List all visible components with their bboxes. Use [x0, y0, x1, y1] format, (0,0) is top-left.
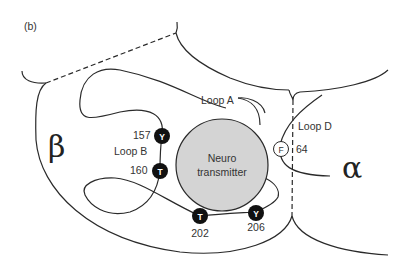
- loop-b-label: Loop B: [114, 145, 147, 157]
- residue-t160-letter: T: [157, 167, 163, 177]
- outline-alpha-top: [289, 70, 388, 100]
- interface-dashed-line-top: [46, 33, 176, 83]
- alpha-subunit-label: α: [342, 150, 362, 185]
- residue-y157-number: 157: [133, 129, 151, 141]
- residue-f64-number: 64: [296, 143, 308, 155]
- residue-y157-letter: Y: [159, 132, 165, 142]
- neurotransmitter-label-line2: transmitter: [197, 166, 247, 178]
- binding-site-diagram: (b) Neuro transmitter β α Loop A Loop B …: [0, 0, 410, 269]
- residue-t202-letter: T: [197, 212, 203, 222]
- panel-label: (b): [24, 20, 37, 32]
- residue-y206: Y 206: [247, 205, 265, 233]
- neurotransmitter-circle: [176, 119, 268, 211]
- residue-t160-number: 160: [130, 164, 148, 176]
- residue-t202: T 202: [191, 208, 209, 239]
- residue-t160: T 160: [130, 163, 168, 179]
- residue-y206-letter: Y: [253, 209, 259, 219]
- beta-subunit-label: β: [48, 129, 65, 164]
- loop-d-label: Loop D: [298, 120, 332, 132]
- loop-a-label: Loop A: [201, 94, 234, 106]
- residue-f64-letter: F: [278, 145, 283, 155]
- residue-f64: F 64: [274, 142, 308, 157]
- residue-y206-number: 206: [247, 221, 265, 233]
- outline-alpha-bottom: [292, 216, 388, 255]
- residue-y157: Y 157: [133, 128, 170, 144]
- outline-top-curl: [176, 22, 289, 90]
- neurotransmitter-label-line1: Neuro: [208, 152, 237, 164]
- loop-d-strand: [280, 95, 330, 176]
- interface-dashed-line-vertical: [292, 100, 293, 216]
- residue-t202-number: 202: [191, 227, 209, 239]
- outline-top-left-curl: [22, 71, 46, 83]
